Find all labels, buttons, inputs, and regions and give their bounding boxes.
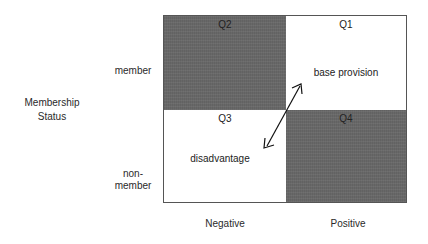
- double-arrow-icon: [0, 0, 428, 244]
- x-tick-positive: Positive: [318, 218, 378, 230]
- x-tick-negative: Negative: [195, 218, 255, 230]
